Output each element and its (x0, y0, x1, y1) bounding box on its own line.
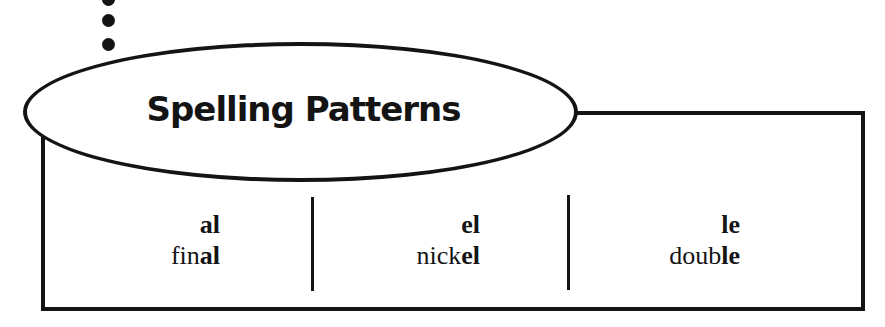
pattern-label: al (120, 209, 220, 240)
example-word: final (120, 240, 220, 271)
pattern-column-le: le double (620, 209, 740, 271)
example-suffix: al (200, 241, 220, 270)
bullet-dot-icon (102, 0, 115, 6)
column-divider (567, 195, 570, 290)
column-divider (311, 197, 314, 291)
example-prefix: nick (416, 241, 461, 270)
page-title: Spelling Patterns (147, 89, 461, 129)
example-suffix: le (721, 241, 740, 270)
title-ellipse: Spelling Patterns (23, 42, 578, 182)
bullet-dot-icon (102, 38, 115, 51)
pattern-label: el (360, 209, 480, 240)
example-word: double (620, 240, 740, 271)
bullet-dot-icon (102, 14, 115, 27)
pattern-column-al: al final (120, 209, 220, 271)
example-prefix: doub (669, 241, 721, 270)
example-suffix: el (461, 241, 480, 270)
pattern-label: le (620, 209, 740, 240)
example-prefix: fin (171, 241, 200, 270)
example-word: nickel (360, 240, 480, 271)
pattern-column-el: el nickel (360, 209, 480, 271)
